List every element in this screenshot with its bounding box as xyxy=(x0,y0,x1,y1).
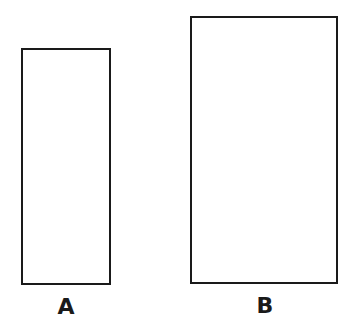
label-b: B xyxy=(245,294,285,318)
rectangle-a xyxy=(21,48,111,285)
rectangle-b xyxy=(190,16,338,284)
label-a: A xyxy=(46,295,86,319)
